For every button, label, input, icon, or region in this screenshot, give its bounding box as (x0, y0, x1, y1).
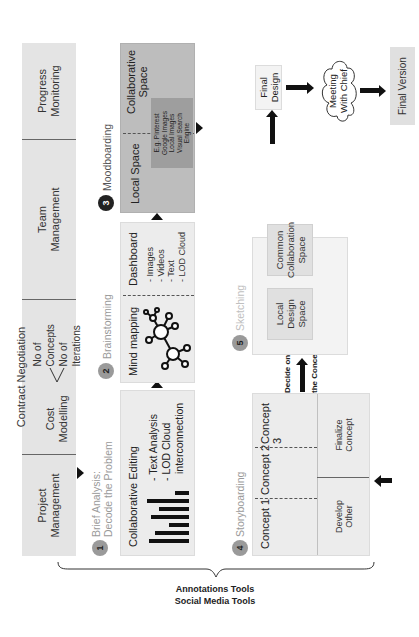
brainstorming-card: Mind mapping (120, 222, 195, 383)
contract-negotiation-label: Contract Negotiation (15, 327, 28, 427)
step-5-label: Sketching (234, 285, 246, 331)
project-management-box: Project Management (22, 455, 76, 556)
sketching-card: Local Design Space Common Collaboration … (252, 237, 348, 355)
decide-label-line1: Decide on (283, 355, 292, 393)
dashboard-heading: Dashboard (127, 232, 139, 286)
develop-other-cell: Develop Other (319, 478, 369, 555)
brace-icon (56, 559, 376, 579)
final-version-box: Final Version (390, 47, 415, 125)
collaborative-editing-heading: Collaborative Editing (127, 446, 139, 547)
common-collaboration-space-box: Common Collaboration Space (267, 224, 313, 276)
arrow-icon (286, 85, 308, 90)
divider (123, 295, 194, 296)
local-space-heading: Local Space (129, 143, 141, 204)
cost-modelling-group: Cost Modelling No of Concepts No of Iter… (31, 300, 83, 454)
divider (317, 394, 318, 555)
step-2-label: Brainstorming (101, 294, 113, 359)
step-3-circle: 3 (98, 195, 114, 211)
meeting-with-chief-label: Meeting With Chief (322, 57, 354, 125)
arrow-icon (270, 116, 275, 144)
contract-negotiation-box: Contract Negotiation Cost Modelling No o… (22, 300, 76, 455)
step-4-label: Storyboarding (234, 472, 246, 537)
moodboarding-card: Local Space Collaborative Space E.g. Pin… (120, 43, 195, 213)
project-management-label: Project Management (36, 473, 61, 537)
concept-2-label: Concept 2 (259, 445, 271, 495)
concept-1-label: Concept 1 (259, 499, 271, 549)
no-of-iterations-label: No of Iterations (57, 300, 83, 366)
team-management-box: Team Management (22, 140, 76, 300)
brace-labels: Annotations Tools Social Media Tools (140, 583, 290, 623)
social-media-tools-label: Social Media Tools (140, 595, 290, 607)
divider (255, 447, 317, 448)
step-5-circle: 5 (232, 335, 248, 351)
brief-analysis-items: - Text Analysis - LOD Cloud interconnect… (147, 403, 186, 481)
final-design-box: Final Design (255, 65, 282, 110)
local-design-space-box: Local Design Space (267, 288, 313, 340)
collaborative-space-heading: Collaborative Space (125, 50, 149, 114)
bar-chart-icon (145, 487, 189, 545)
diagram-canvas: Project Management Contract Negotiation … (0, 0, 419, 637)
dashboard-items: - Images - Videos - Text - LOD Cloud (145, 232, 187, 282)
divider (255, 498, 317, 499)
step-1-label: Brief Analysis: Decode the Problem (90, 441, 114, 537)
finalize-concept-cell: Finalize Concept (319, 394, 369, 476)
divider (317, 477, 369, 478)
annotations-tools-label: Annotations Tools (140, 583, 290, 595)
mind-mapping-heading: Mind mapping (127, 307, 139, 376)
step-3-label: Moodboarding (101, 124, 113, 191)
progress-monitoring-box: Progress Monitoring (22, 43, 76, 140)
search-sources-box: E.g. Pinterest Google Images Local Image… (151, 98, 193, 168)
concept-3-label: Concept 3 (259, 394, 283, 444)
arrow-icon (300, 364, 305, 392)
mind-map-icon (143, 306, 191, 370)
branch-connector-icon (47, 367, 67, 382)
step-4-circle: 4 (232, 540, 248, 556)
progress-monitoring-label: Progress Monitoring (36, 56, 62, 126)
team-management-label: Team Management (36, 180, 62, 260)
cost-modelling-label: Cost Modelling (44, 384, 70, 454)
arrow-icon (380, 478, 392, 483)
step-1-circle: 1 (92, 540, 108, 556)
step-2-circle: 2 (98, 363, 114, 379)
no-of-concepts-label: No of Concepts (31, 300, 57, 366)
storyboarding-card: Concept 1 Concept 2 Concept 3 Develop Ot… (252, 393, 370, 556)
arrow-icon (360, 88, 380, 93)
brief-analysis-card: Collaborative Editing - Text Analysis - … (120, 390, 195, 556)
